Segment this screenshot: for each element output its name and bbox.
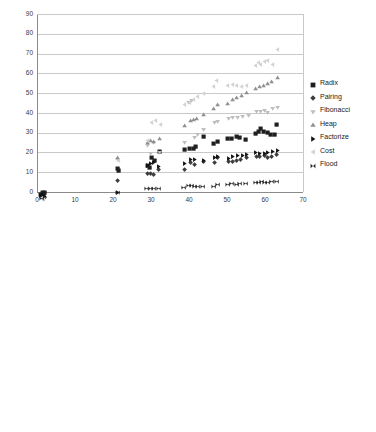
chart-legend: Radix Pairing Fibonacci Heap Factorize (308, 76, 350, 171)
legend-label: Factorize (320, 133, 349, 140)
legend-label: Pairing (320, 93, 342, 100)
bowtie-icon (308, 158, 317, 169)
figure-root: 0102030405060708090010203040506070 Radix… (0, 0, 376, 432)
legend-label: Fibonacci (320, 106, 350, 113)
legend-label: Flood (320, 160, 338, 167)
legend-label: Cost (320, 147, 334, 154)
legend-label: Radix (320, 79, 338, 86)
legend-label: Heap (320, 120, 337, 127)
legend-item-flood[interactable]: Flood (308, 157, 350, 171)
chart-top: 0102030405060708090010203040506070 Radix… (0, 0, 376, 216)
